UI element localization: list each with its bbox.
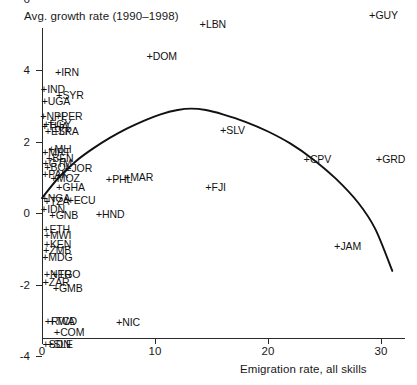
- data-point-label: COM: [60, 326, 84, 338]
- data-point-label: DOM: [153, 50, 177, 62]
- data-point-com: +COM: [54, 327, 85, 338]
- data-point-label: MDG: [48, 251, 72, 263]
- data-point-grd: +GRD: [376, 154, 405, 165]
- data-point-ecu: +ECU: [67, 195, 95, 206]
- data-point-sle: +SLE: [47, 338, 73, 349]
- data-point-label: LBN: [206, 18, 226, 30]
- data-point-label: JAM: [340, 239, 361, 251]
- data-point-label: MAR: [130, 170, 153, 182]
- data-point-label: GRD: [382, 153, 405, 165]
- data-point-uga: +UGA: [41, 96, 70, 107]
- data-point-lka: +LKA: [53, 126, 79, 137]
- data-point-label: NIC: [122, 316, 140, 328]
- data-point-label: CPV: [310, 152, 331, 164]
- data-point-irn: +IRN: [55, 66, 79, 77]
- data-point-label: GUY: [375, 8, 397, 20]
- data-point-jam: +JAM: [334, 240, 361, 251]
- data-point-mar: +MAR: [124, 171, 153, 182]
- data-point-label: GNB: [56, 209, 78, 221]
- scatter-chart: Avg. growth rate (1990–1998) -4-20246 01…: [0, 0, 417, 385]
- data-point-cpv: +CPV: [304, 153, 332, 164]
- data-point-label: HND: [102, 207, 124, 219]
- x-axis-title: Emigration rate, all skills: [240, 363, 367, 375]
- data-point-gnb: +GNB: [49, 210, 78, 221]
- data-point-label: GMB: [59, 282, 83, 294]
- data-point-gmb: +GMB: [53, 283, 83, 294]
- data-point-lbn: +LBN: [200, 19, 226, 30]
- data-point-label: SLV: [226, 124, 245, 136]
- data-point-tcd: +TCD: [49, 315, 77, 326]
- data-point-label: ECU: [74, 194, 96, 206]
- data-point-label: SLE: [53, 337, 73, 349]
- data-point-label: LKA: [59, 125, 79, 137]
- data-point-mdg: +MDG: [42, 252, 73, 263]
- data-point-label: TCD: [56, 314, 77, 326]
- data-point-nic: +NIC: [116, 317, 140, 328]
- data-point-hnd: +HND: [96, 208, 125, 219]
- data-point-label: FJI: [212, 181, 226, 193]
- data-point-dom: +DOM: [146, 51, 177, 62]
- data-point-label: IRN: [61, 65, 79, 77]
- data-point-fji: +FJI: [205, 182, 226, 193]
- data-point-label: UGA: [48, 95, 70, 107]
- data-point-guy: +GUY: [369, 9, 398, 20]
- data-point-slv: +SLV: [220, 125, 245, 136]
